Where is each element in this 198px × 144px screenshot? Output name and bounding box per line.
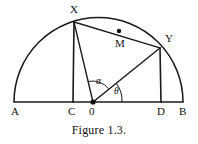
- figure-container: A C 0 D B X Y M α θ Figure 1.3.: [0, 0, 198, 144]
- point-label-A: A: [11, 106, 19, 117]
- point-label-D: D: [157, 106, 165, 117]
- angle-label-alpha: α: [96, 77, 101, 87]
- segment-radius-OY: [93, 48, 160, 102]
- point-dot-O: [90, 99, 95, 104]
- segment-perp-YD: [160, 48, 161, 102]
- semicircle-arc: [14, 18, 183, 103]
- point-dot-M: [117, 29, 121, 33]
- segment-perp-XC: [73, 22, 74, 102]
- point-label-M: M: [115, 38, 125, 49]
- point-label-X: X: [70, 4, 78, 15]
- angle-label-theta: θ: [114, 87, 119, 97]
- point-label-C: C: [68, 106, 75, 117]
- figure-caption: Figure 1.3.: [0, 123, 198, 138]
- point-label-Y: Y: [165, 33, 173, 44]
- point-label-B: B: [179, 106, 186, 117]
- point-label-O: 0: [89, 106, 95, 117]
- segment-radius-OX: [74, 22, 93, 102]
